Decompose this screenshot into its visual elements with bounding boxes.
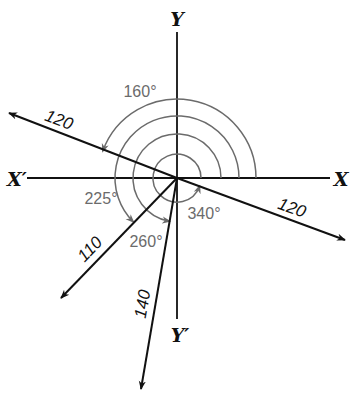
vector-diagram: Y Y′ X X′ 120 120 110 140 160° 225° 260°… <box>0 0 355 394</box>
magnitude-label-120-lower: 120 <box>275 194 309 222</box>
angle-label-225: 225° <box>84 190 117 207</box>
magnitude-label-140: 140 <box>131 288 155 320</box>
magnitude-label-120-upper: 120 <box>42 106 76 134</box>
y-neg-axis-label: Y′ <box>171 324 190 346</box>
diagram-canvas: Y Y′ X X′ 120 120 110 140 160° 225° 260°… <box>0 0 355 394</box>
angle-label-160: 160° <box>123 83 156 100</box>
angle-label-340: 340° <box>187 205 220 222</box>
angle-label-260: 260° <box>129 233 162 250</box>
magnitude-label-110: 110 <box>74 232 107 265</box>
arc-160 <box>103 99 256 178</box>
x-neg-axis-label: X′ <box>6 168 27 190</box>
vector-120-at-160 <box>9 113 177 178</box>
y-axis-label: Y <box>170 8 186 30</box>
x-axis-label: X <box>333 168 350 190</box>
